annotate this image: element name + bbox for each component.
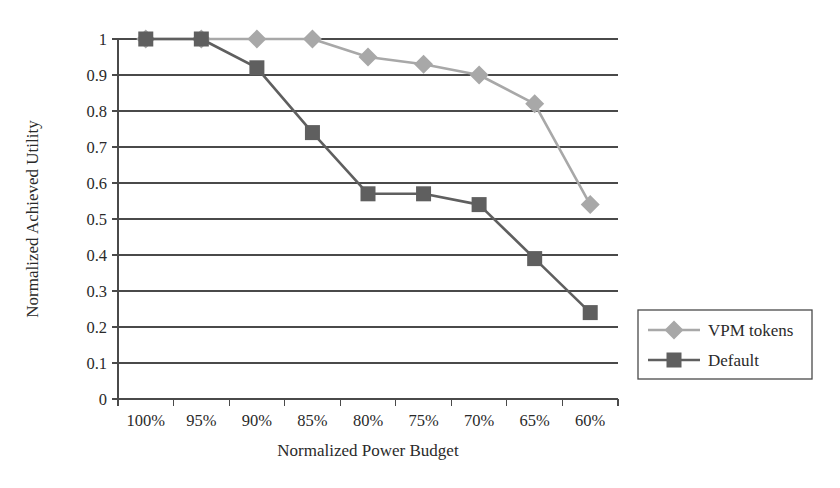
y-tick-label-0.1: 0.1: [86, 354, 107, 373]
data-point-default-85%: [305, 125, 320, 140]
series-line-default: [146, 39, 590, 313]
y-tick-label-0.3: 0.3: [86, 282, 107, 301]
data-point-vpm-tokens-70%: [470, 66, 489, 85]
x-tick-label-95%: 95%: [186, 411, 217, 430]
x-tick-label-100%: 100%: [127, 411, 166, 430]
x-tick-label-85%: 85%: [297, 411, 328, 430]
legend-label-default: Default: [708, 351, 759, 370]
data-point-default-100%: [138, 32, 153, 47]
y-tick-label-0.9: 0.9: [86, 66, 107, 85]
data-point-default-95%: [194, 32, 209, 47]
y-tick-label-0.8: 0.8: [86, 102, 107, 121]
line-chart: 10.90.80.70.60.50.40.30.20.10 100%95%90%…: [0, 0, 840, 488]
y-axis-tick-labels: 10.90.80.70.60.50.40.30.20.10: [86, 30, 107, 409]
data-point-default-90%: [249, 60, 264, 75]
y-tick-label-0.6: 0.6: [86, 174, 107, 193]
data-point-vpm-tokens-80%: [359, 48, 378, 67]
legend-label-vpm-tokens: VPM tokens: [708, 321, 793, 340]
y-tick-label-0.4: 0.4: [86, 246, 107, 265]
chart-figure: 10.90.80.70.60.50.40.30.20.10 100%95%90%…: [0, 0, 840, 488]
data-point-default-70%: [472, 197, 487, 212]
y-tick-label-0.7: 0.7: [86, 138, 107, 157]
data-point-default-75%: [416, 186, 431, 201]
x-tick-label-65%: 65%: [520, 411, 551, 430]
data-point-vpm-tokens-85%: [303, 30, 322, 49]
data-point-default-80%: [361, 186, 376, 201]
y-tick-label-0.2: 0.2: [86, 318, 107, 337]
x-tick-label-80%: 80%: [353, 411, 384, 430]
data-point-default-65%: [527, 251, 542, 266]
y-tick-label-1: 1: [99, 30, 107, 49]
data-point-vpm-tokens-75%: [414, 55, 433, 74]
x-tick-label-90%: 90%: [242, 411, 273, 430]
data-point-vpm-tokens-90%: [247, 30, 266, 49]
x-tick-label-70%: 70%: [464, 411, 495, 430]
y-tick-label-0: 0: [99, 390, 107, 409]
x-axis-title: Normalized Power Budget: [277, 441, 459, 460]
y-axis-title: Normalized Achieved Utility: [23, 120, 42, 318]
y-tick-label-0.5: 0.5: [86, 210, 107, 229]
data-point-vpm-tokens-60%: [581, 195, 600, 214]
x-tick-label-60%: 60%: [575, 411, 606, 430]
chart-legend: VPM tokensDefault: [638, 310, 812, 379]
legend-marker-default: [667, 353, 682, 368]
data-point-default-60%: [583, 305, 598, 320]
x-tick-label-75%: 75%: [408, 411, 439, 430]
data-series-group: [136, 30, 599, 321]
axes-group: [112, 39, 618, 406]
x-axis-tick-labels: 100%95%90%85%80%75%70%65%60%: [127, 411, 606, 430]
